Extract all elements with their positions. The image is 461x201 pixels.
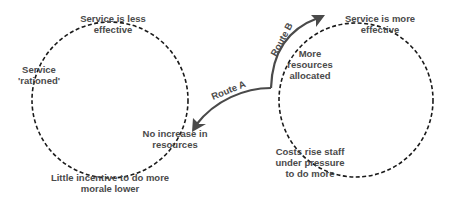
right-top-line1: Service is more — [340, 13, 420, 24]
left-top-line1: Service is less — [78, 13, 148, 24]
left-top-line2: effective — [78, 24, 148, 35]
left-left-line2: 'rationed' — [14, 75, 64, 86]
left-left-node: Service 'rationed' — [14, 64, 64, 86]
right-left-line1: More — [280, 48, 340, 59]
left-bottom-line2: morale lower — [50, 183, 170, 194]
right-top-line2: effective — [340, 24, 420, 35]
right-bottom-line2: under pressure — [272, 157, 348, 168]
right-bottom-line3: to do more — [272, 168, 348, 179]
right-left-line3: allocated — [280, 70, 340, 81]
right-top-node: Service is more effective — [340, 13, 420, 35]
left-cycle-circle — [32, 22, 188, 178]
left-left-line1: Service — [14, 64, 64, 75]
left-right-node: No increase in resources — [140, 128, 210, 150]
left-right-line2: resources — [140, 139, 210, 150]
left-right-line1: No increase in — [140, 128, 210, 139]
right-bottom-node: Costs rise staff under pressure to do mo… — [272, 146, 348, 179]
right-left-line2: resources — [280, 59, 340, 70]
left-top-node: Service is less effective — [78, 13, 148, 35]
right-left-node: More resources allocated — [280, 48, 340, 81]
left-bottom-node: Little incentive to do more morale lower — [50, 172, 170, 194]
vicious-virtuous-cycle-diagram: Route A Route B Service is less effectiv… — [0, 0, 461, 201]
left-bottom-line1: Little incentive to do more — [50, 172, 170, 183]
right-bottom-line1: Costs rise staff — [272, 146, 348, 157]
